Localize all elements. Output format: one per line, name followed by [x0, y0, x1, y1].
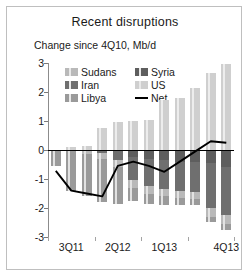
chart-title: Recent disruptions	[7, 15, 243, 29]
bar-segment-libya	[82, 154, 92, 196]
x-axis-tick	[141, 237, 142, 241]
bar-segment-us	[128, 121, 138, 150]
x-axis-label: 3Q11	[59, 241, 84, 253]
bar-segment-libya	[128, 188, 138, 201]
bar-segment-libya	[66, 151, 76, 190]
bar-segment-libya	[51, 150, 61, 166]
y-axis-tick	[44, 179, 48, 180]
bar-segment-libya	[113, 167, 123, 203]
x-axis-tick	[95, 237, 96, 241]
bar-segment-iran	[128, 157, 138, 180]
bar-segment-us	[159, 100, 169, 150]
bar-segment-us	[175, 98, 185, 150]
bar-segment-libya	[190, 199, 200, 205]
bar-segment-syria	[206, 150, 216, 163]
bar-segment-iran	[144, 159, 154, 187]
bar-segment-syria	[190, 150, 200, 162]
x-axis-tick	[188, 237, 189, 241]
x-axis-tick	[234, 237, 235, 241]
bar-segment-us	[97, 128, 107, 150]
bar-segment-syria	[144, 150, 154, 159]
bar-segment-iran	[206, 163, 216, 208]
bar-segment-sudans	[190, 192, 200, 199]
bar-segment-us	[206, 73, 216, 150]
bar-segment-iran	[221, 167, 231, 215]
bar-segment-us	[144, 120, 154, 150]
bar-segment-us	[221, 64, 231, 150]
bar-segment-syria	[128, 150, 138, 157]
bar-segment-sudans	[144, 186, 154, 193]
bar-segment-iran	[175, 162, 185, 191]
bar-segment-us	[113, 122, 123, 150]
bar-segment-sudans	[221, 215, 231, 224]
x-axis-label: 1Q13	[151, 241, 177, 253]
y-axis-tick	[44, 208, 48, 209]
zero-baseline	[48, 150, 234, 151]
chart-subtitle: Change since 4Q10, Mb/d	[34, 39, 156, 51]
y-axis-label: -3	[35, 231, 44, 243]
bar-segment-libya	[159, 196, 169, 205]
bar-segment-sudans	[113, 160, 123, 167]
chart-frame: Recent disruptions Change since 4Q10, Mb…	[6, 6, 242, 270]
bar-segment-iran	[190, 162, 200, 192]
y-axis-label: -2	[35, 202, 44, 214]
bar-segment-libya	[175, 198, 185, 205]
bar-segment-syria	[221, 150, 231, 167]
bar-segment-iran	[159, 160, 169, 189]
y-axis-label: -1	[35, 173, 44, 185]
bar-segment-us	[190, 88, 200, 150]
bar-segment-sudans	[175, 191, 185, 198]
bar-segment-libya	[221, 224, 231, 230]
bar-segment-libya	[144, 194, 154, 204]
plot-area: 3210-1-2-3 3Q112Q121Q134Q13	[48, 63, 234, 237]
bar-segment-sudans	[206, 208, 216, 217]
bar-segment-sudans	[128, 180, 138, 187]
bar-segment-libya	[206, 217, 216, 223]
y-axis-tick	[44, 121, 48, 122]
bar-segment-syria	[159, 150, 169, 160]
bar-segment-iran	[113, 151, 123, 160]
y-axis-tick	[44, 63, 48, 64]
x-axis-label: 2Q12	[105, 241, 131, 253]
bar-segment-libya	[97, 159, 107, 203]
bar-segment-syria	[175, 150, 185, 162]
y-axis-tick	[44, 92, 48, 93]
bar-segment-sudans	[159, 189, 169, 196]
x-axis-label: 4Q13	[213, 241, 239, 253]
x-axis-tick	[48, 237, 49, 241]
